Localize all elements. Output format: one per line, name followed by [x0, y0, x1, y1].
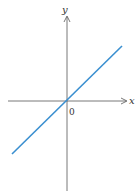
graph: x y 0: [0, 0, 136, 196]
y-axis-label: y: [61, 4, 68, 15]
origin-label: 0: [69, 107, 75, 117]
x-axis-label: x: [129, 95, 135, 106]
